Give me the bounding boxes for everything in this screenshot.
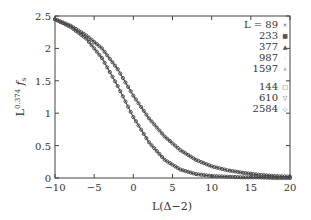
legend-marker-icon: ▽ (283, 94, 288, 101)
scaling-collapse-chart: −10−50510152000.511.522.5 L = 89×233■377… (0, 0, 311, 220)
x-axis-label: L(Δ−2) (152, 200, 192, 213)
legend-label: 987 (259, 52, 278, 63)
legend-label: L = 89 (244, 19, 278, 30)
legend-label: 377 (259, 41, 278, 52)
legend-marker-icon: ■ (282, 32, 288, 39)
legend-marker-icon: × (282, 21, 287, 28)
series-2 (53, 18, 291, 180)
legend-label: 2584 (253, 103, 278, 114)
legend-marker-icon: ◇ (283, 105, 288, 112)
y-axis-label: L0.374 fs (14, 77, 28, 116)
legend-marker-icon: □ (282, 83, 288, 90)
x-tick-label: 10 (205, 182, 218, 193)
x-tick-label: 15 (244, 182, 257, 193)
legend-marker-icon: ▲ (283, 43, 288, 50)
y-tick-label: 0 (45, 173, 51, 184)
legend-label: 1597 (253, 63, 278, 74)
legend: L = 89×233■377▲987·1597+144□610▽2584◇ (244, 19, 288, 114)
y-tick-label: 2.5 (35, 11, 51, 22)
legend-marker-icon: + (282, 65, 287, 72)
plot-area (53, 18, 291, 180)
legend-label: 233 (259, 30, 278, 41)
legend-label: 610 (259, 92, 278, 103)
y-tick-label: 1 (45, 108, 51, 119)
y-tick-label: 0.5 (35, 141, 51, 152)
x-tick-label: 0 (130, 182, 136, 193)
x-tick-label: 20 (284, 182, 297, 193)
y-tick-label: 2 (45, 43, 51, 54)
axes: −10−50510152000.511.522.5 (35, 11, 296, 193)
legend-label: 144 (259, 81, 278, 92)
x-tick-label: −5 (87, 182, 102, 193)
legend-marker-icon: · (284, 54, 286, 61)
x-tick-label: 5 (169, 182, 175, 193)
y-tick-label: 1.5 (35, 76, 51, 87)
